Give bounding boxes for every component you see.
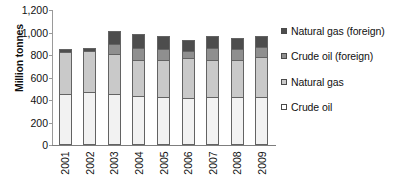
bar-segment	[231, 60, 244, 97]
bar-segment	[157, 60, 170, 97]
y-axis-tick-label: 800	[6, 49, 48, 61]
legend-label: Natural gas (foreign)	[291, 25, 385, 37]
x-axis-tick-label-2001: 2001	[59, 151, 71, 174]
x-axis-tick-label-2004: 2004	[133, 151, 145, 174]
bar-segment	[255, 57, 268, 97]
bar-segment	[132, 34, 145, 48]
legend-swatch-icon	[281, 79, 287, 85]
plot-area	[52, 10, 274, 145]
bar-segment	[59, 94, 72, 145]
x-axis-slot: 2002	[78, 146, 103, 183]
bar-slot	[53, 10, 78, 145]
legend-swatch-icon	[281, 53, 287, 59]
x-axis-slot: 2001	[53, 146, 78, 183]
x-axis-tick-label-2008: 2008	[231, 151, 243, 174]
bar-slot	[127, 10, 152, 145]
x-axis-slot: 2003	[102, 146, 127, 183]
bar-2004[interactable]	[132, 34, 145, 145]
bar-slot	[176, 10, 201, 145]
bar-segment	[83, 51, 96, 92]
bar-segment	[255, 47, 268, 58]
bar-2008[interactable]	[231, 38, 244, 145]
y-axis-tick-mark	[49, 78, 52, 79]
bar-segment	[206, 97, 219, 145]
bar-segment	[157, 49, 170, 60]
bar-segment	[231, 38, 244, 49]
x-axis-tick-label-2006: 2006	[182, 151, 194, 174]
y-axis-tick-mark	[49, 100, 52, 101]
legend-label: Natural gas	[291, 76, 344, 88]
bar-slot	[151, 10, 176, 145]
x-axis-slot: 2007	[200, 146, 225, 183]
bar-slot	[200, 10, 225, 145]
bar-2009[interactable]	[255, 36, 268, 145]
bar-segment	[132, 48, 145, 60]
bar-2006[interactable]	[182, 40, 195, 145]
bar-segment	[132, 60, 145, 95]
bar-segment	[132, 96, 145, 146]
x-axis-tick-label-2007: 2007	[207, 151, 219, 174]
y-axis-tick-mark	[49, 10, 52, 11]
bar-segment	[255, 97, 268, 145]
y-axis-tick-mark	[49, 145, 52, 146]
bar-segment	[255, 36, 268, 46]
legend-item[interactable]: Natural gas	[281, 69, 395, 95]
legend-swatch-icon	[281, 28, 287, 34]
bar-2002[interactable]	[83, 48, 96, 145]
y-axis-tick-label: 600	[6, 72, 48, 84]
bar-segment	[231, 97, 244, 145]
x-axis-tick-labels: 200120022003200420052006200720082009	[53, 146, 274, 183]
bar-segment	[231, 49, 244, 60]
bar-segment	[182, 40, 195, 51]
legend-item[interactable]: Crude oil (foreign)	[281, 44, 395, 70]
chart-legend: Natural gas (foreign)Crude oil (foreign)…	[281, 18, 395, 120]
bar-2005[interactable]	[157, 36, 170, 145]
bar-segment	[59, 52, 72, 94]
bar-group	[53, 10, 274, 145]
bar-segment	[83, 92, 96, 145]
x-axis-tick-label-2002: 2002	[84, 151, 96, 174]
stacked-bar-chart: Million tonnes 1,2001,0008006004002000 2…	[0, 0, 395, 183]
bar-segment	[108, 54, 121, 94]
y-axis-tick-label: 0	[6, 139, 48, 151]
x-axis-slot: 2008	[225, 146, 250, 183]
legend-swatch-icon	[281, 104, 287, 110]
bar-segment	[206, 48, 219, 60]
bar-slot	[250, 10, 275, 145]
bar-slot	[102, 10, 127, 145]
bar-2001[interactable]	[59, 49, 72, 145]
bar-segment	[182, 58, 195, 98]
x-axis-tick-label-2009: 2009	[256, 151, 268, 174]
bar-segment	[157, 97, 170, 145]
bar-segment	[182, 51, 195, 58]
bar-segment	[108, 94, 121, 145]
bar-slot	[78, 10, 103, 145]
y-axis-tick-mark	[49, 33, 52, 34]
bar-2007[interactable]	[206, 36, 219, 145]
bar-segment	[108, 31, 121, 44]
bar-segment	[182, 98, 195, 145]
x-axis-slot: 2009	[250, 146, 275, 183]
bar-segment	[206, 60, 219, 97]
y-axis-tick-label: 1,000	[6, 27, 48, 39]
bar-segment	[108, 44, 121, 55]
x-axis-slot: 2004	[127, 146, 152, 183]
y-axis-tick-mark	[49, 123, 52, 124]
bar-slot	[225, 10, 250, 145]
x-axis-slot: 2006	[176, 146, 201, 183]
bar-segment	[206, 36, 219, 48]
bar-segment	[157, 36, 170, 49]
y-axis-tick-labels: 1,2001,0008006004002000	[6, 0, 48, 183]
x-axis-tick-label-2003: 2003	[108, 151, 120, 174]
bar-2003[interactable]	[108, 31, 121, 145]
y-axis-tick-label: 1,200	[6, 4, 48, 16]
legend-label: Crude oil (foreign)	[291, 50, 373, 62]
y-axis-tick-label: 400	[6, 94, 48, 106]
x-axis-slot: 2005	[151, 146, 176, 183]
legend-label: Crude oil	[291, 101, 332, 113]
y-axis-tick-mark	[49, 55, 52, 56]
legend-item[interactable]: Crude oil	[281, 95, 395, 121]
legend-item[interactable]: Natural gas (foreign)	[281, 18, 395, 44]
x-axis-tick-label-2005: 2005	[158, 151, 170, 174]
y-axis-tick-label: 200	[6, 117, 48, 129]
